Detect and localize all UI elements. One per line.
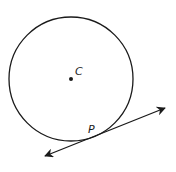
diagram-canvas: C P: [0, 0, 176, 172]
tangent-line: [45, 108, 165, 156]
center-point: [69, 77, 73, 81]
center-label: C: [75, 65, 83, 78]
tangent-point-label: P: [88, 123, 95, 136]
